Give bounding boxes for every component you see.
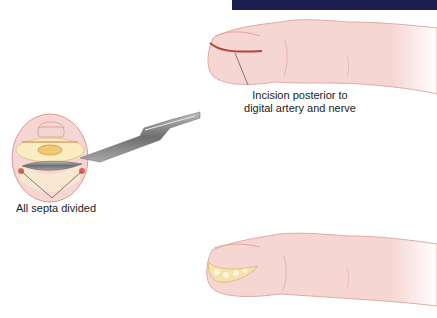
- cross-section-icon: [12, 114, 88, 202]
- finger-bottom-icon: [207, 233, 437, 306]
- incision-annotation: Incision posterior to digital artery and…: [200, 89, 400, 115]
- incision-annotation-line2: digital artery and nerve: [200, 102, 400, 115]
- scalpel-icon: [80, 112, 200, 162]
- illustration: [0, 0, 437, 318]
- septa-annotation: All septa divided: [16, 202, 96, 215]
- incision-annotation-line1: Incision posterior to: [200, 89, 400, 102]
- finger-top-icon: [208, 20, 437, 94]
